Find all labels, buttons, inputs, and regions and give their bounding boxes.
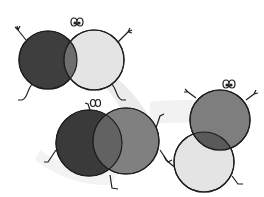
venn-cartoon-illustration: [0, 0, 264, 197]
pair-top-left: [15, 18, 132, 100]
pair-right: [164, 80, 258, 192]
